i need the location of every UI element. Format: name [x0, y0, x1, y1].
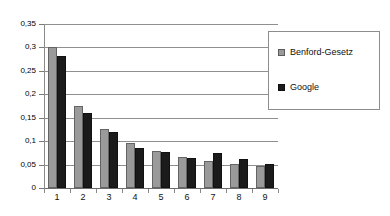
legend: Benford-Gesetz Google	[268, 31, 380, 110]
bar-group	[96, 24, 122, 188]
legend-label-google: Google	[290, 82, 319, 92]
bar-group	[44, 24, 70, 188]
legend-swatch-google-icon	[278, 84, 285, 91]
bar-google-2	[83, 113, 92, 188]
bar-google-9	[265, 164, 274, 188]
gridline	[44, 188, 278, 189]
y-axis-tick-label: 0,15	[0, 114, 36, 122]
bar-benford-2	[74, 106, 83, 188]
category-label-2: 2	[73, 193, 93, 202]
bar-benford-6	[178, 157, 187, 188]
category-label-5: 5	[151, 193, 171, 202]
category-tick	[44, 189, 45, 193]
bar-group	[148, 24, 174, 188]
category-label-9: 9	[255, 193, 275, 202]
bar-benford-5	[152, 151, 161, 188]
category-label-1: 1	[47, 193, 67, 202]
bar-google-1	[57, 56, 66, 188]
legend-swatch-benford-icon	[278, 49, 285, 56]
y-axis-tick-label: 0,05	[0, 161, 36, 169]
category-tick	[200, 189, 201, 193]
category-tick	[96, 189, 97, 193]
category-label-3: 3	[99, 193, 119, 202]
category-tick	[278, 189, 279, 193]
bar-google-4	[135, 148, 144, 188]
y-axis-tick-label: 0,3	[0, 43, 36, 51]
bar-group	[226, 24, 252, 188]
category-tick	[226, 189, 227, 193]
category-tick	[174, 189, 175, 193]
bar-group	[200, 24, 226, 188]
legend-label-benford: Benford-Gesetz	[290, 47, 353, 57]
legend-item-google: Google	[278, 82, 319, 92]
bar-google-8	[239, 159, 248, 188]
bar-benford-4	[126, 143, 135, 188]
bar-google-3	[109, 132, 118, 188]
bar-benford-7	[204, 161, 213, 188]
category-tick	[70, 189, 71, 193]
bar-google-6	[187, 158, 196, 188]
category-label-4: 4	[125, 193, 145, 202]
y-axis-tick-label: 0,25	[0, 67, 36, 75]
bar-google-5	[161, 152, 170, 188]
category-label-8: 8	[229, 193, 249, 202]
y-axis-tick-label: 0,35	[0, 20, 36, 28]
category-label-6: 6	[177, 193, 197, 202]
y-axis-tick-label: 0,1	[0, 137, 36, 145]
benford-google-bar-chart: 00,050,10,150,20,250,30,35 123456789 Ben…	[0, 0, 390, 216]
bar-google-7	[213, 153, 222, 188]
bar-benford-1	[48, 47, 57, 188]
bar-group	[174, 24, 200, 188]
plot-area	[44, 24, 278, 188]
category-tick	[122, 189, 123, 193]
category-tick	[252, 189, 253, 193]
y-axis-tick-label: 0,2	[0, 90, 36, 98]
bar-group	[70, 24, 96, 188]
bar-benford-8	[230, 164, 239, 188]
category-label-7: 7	[203, 193, 223, 202]
bar-benford-3	[100, 129, 109, 188]
category-tick	[148, 189, 149, 193]
y-axis-tick-label: 0	[0, 184, 36, 192]
legend-item-benford-gesetz: Benford-Gesetz	[278, 47, 353, 57]
bar-benford-9	[256, 166, 265, 188]
bar-group	[122, 24, 148, 188]
